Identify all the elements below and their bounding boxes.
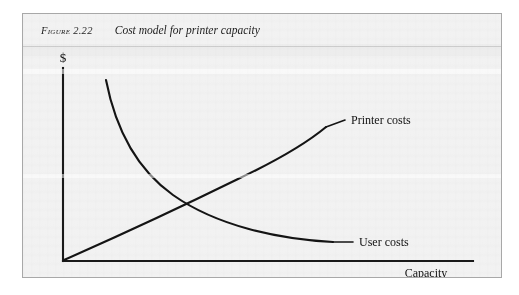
chart-plot-area: $ Printer costs User costs Capacity	[23, 46, 501, 277]
dollar-axis-label: $	[60, 50, 67, 65]
figure-frame: Figure 2.22 Cost model for printer capac…	[22, 13, 502, 278]
figure-number-label: Figure 2.22	[41, 25, 93, 36]
capacity-axis-label: Capacity	[405, 266, 448, 278]
cost-model-chart: $ Printer costs User costs Capacity	[23, 46, 502, 278]
figure-caption-text: Cost model for printer capacity	[115, 24, 260, 36]
user-costs-curve	[106, 80, 333, 242]
figure-page: Figure 2.22 Cost model for printer capac…	[0, 0, 519, 295]
user-costs-label: User costs	[359, 235, 409, 249]
printer-costs-label: Printer costs	[351, 113, 411, 127]
figure-caption-row: Figure 2.22 Cost model for printer capac…	[23, 14, 501, 46]
printer-costs-curve	[64, 127, 326, 260]
printer-costs-leader-line	[326, 120, 345, 127]
